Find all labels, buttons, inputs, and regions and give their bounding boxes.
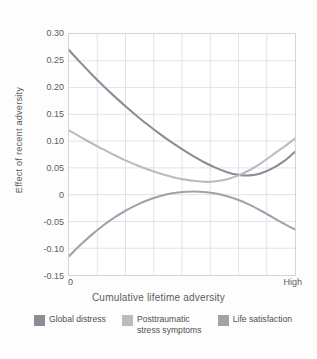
legend-swatch: [218, 315, 229, 326]
series-line: [69, 191, 295, 256]
y-tick-label: 0: [59, 190, 64, 200]
legend-label: Life satisfaction: [233, 314, 292, 325]
x-tick-label-high: High: [283, 277, 302, 287]
legend-item[interactable]: Life satisfaction: [218, 314, 292, 326]
y-tick-label: 0.20: [46, 82, 64, 92]
legend-item[interactable]: Global distress: [34, 314, 106, 326]
y-tick-label: -0.05: [43, 217, 64, 227]
legend-item[interactable]: Posttraumatic stress symptoms: [122, 314, 201, 335]
chart-figure: Effect of recent adversity 0.300.250.200…: [0, 0, 317, 359]
x-axis-title: Cumulative lifetime adversity: [0, 292, 317, 303]
legend-label: Posttraumatic stress symptoms: [137, 314, 201, 335]
y-tick-label: 0.15: [46, 109, 64, 119]
y-tick-label: 0.10: [46, 136, 64, 146]
y-axis-title-label: Effect of recent adversity: [14, 87, 24, 193]
y-tick-label: 0.05: [46, 163, 64, 173]
curve-layer: [69, 34, 295, 275]
y-tick-label: 0.30: [46, 28, 64, 38]
series-line: [69, 50, 295, 175]
y-tick-label: -0.10: [43, 244, 64, 254]
y-axis-tick-labels: 0.300.250.200.150.100.050-0.05-0.10-0.15: [28, 26, 64, 274]
legend-swatch: [34, 315, 45, 326]
y-axis-title: Effect of recent adversity: [8, 0, 30, 280]
legend-swatch: [122, 315, 133, 326]
x-tick-label-low: 0: [68, 277, 73, 287]
y-tick-label: 0.25: [46, 55, 64, 65]
legend-label: Global distress: [49, 314, 106, 325]
chart-legend: Global distressPosttraumatic stress symp…: [34, 314, 292, 335]
plot-area: [68, 33, 296, 276]
x-axis-tick-labels: 0 High: [60, 277, 310, 291]
